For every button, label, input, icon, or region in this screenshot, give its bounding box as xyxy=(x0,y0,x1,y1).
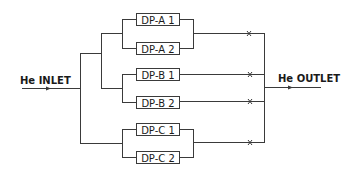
inlet-manifold xyxy=(80,20,137,158)
pump-dp-c1: DP-C 1 xyxy=(137,124,180,136)
svg-text:DP-A 2: DP-A 2 xyxy=(141,44,174,55)
outlet-arrow-icon xyxy=(288,86,293,90)
outlet: He OUTLET xyxy=(264,73,340,90)
svg-text:DP-C 2: DP-C 2 xyxy=(141,153,175,164)
pump-dp-b2: DP-B 2 xyxy=(137,97,180,109)
svg-text:DP-B 1: DP-B 1 xyxy=(141,70,174,81)
inlet: He INLET xyxy=(20,75,81,91)
svg-text:DP-A 1: DP-A 1 xyxy=(141,15,174,26)
inlet-arrow-icon xyxy=(46,87,51,91)
flow-diagram: He INLET DP-A 1 DP-A 2 DP-B 1 xyxy=(0,0,353,174)
svg-text:DP-C 1: DP-C 1 xyxy=(141,125,175,136)
pump-dp-a1: DP-A 1 xyxy=(137,14,180,26)
inlet-label: He INLET xyxy=(20,75,71,86)
svg-text:DP-B 2: DP-B 2 xyxy=(141,98,174,109)
pump-dp-c2: DP-C 2 xyxy=(137,152,180,164)
pump-dp-a2: DP-A 2 xyxy=(137,43,180,55)
outlet-label: He OUTLET xyxy=(278,73,340,84)
outlet-manifold xyxy=(180,19,265,158)
pump-dp-b1: DP-B 1 xyxy=(137,69,180,81)
